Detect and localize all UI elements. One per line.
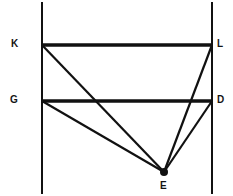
- point-e-dot: [160, 168, 168, 176]
- vertex-label-g: G: [10, 95, 18, 105]
- segment-le: [164, 45, 212, 172]
- geometry-figure: K L G D E: [0, 0, 233, 196]
- segment-ge: [42, 101, 164, 172]
- vertex-label-d: D: [217, 95, 224, 105]
- vertex-label-l: L: [217, 39, 223, 49]
- vertex-label-k: K: [11, 39, 18, 49]
- segment-de: [164, 101, 212, 172]
- segment-ke: [42, 45, 164, 172]
- vertex-label-e: E: [160, 181, 167, 191]
- geometry-canvas: [0, 0, 233, 196]
